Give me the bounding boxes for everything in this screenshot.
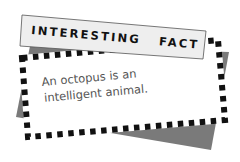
interesting-fact-graphic: An octopus is an intelligent animal. INT… (0, 0, 240, 162)
